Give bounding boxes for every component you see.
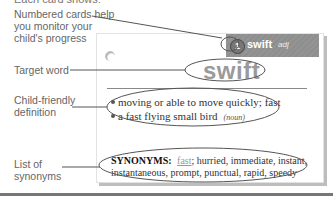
callout-lines (0, 0, 333, 198)
callout-circle-synonyms (99, 148, 307, 182)
bottom-rule (0, 193, 333, 196)
callout-circle-target (185, 59, 265, 81)
callout-line-numbered (92, 16, 222, 38)
callout-circle-definition (107, 88, 279, 126)
callout-circle-number (221, 37, 239, 51)
